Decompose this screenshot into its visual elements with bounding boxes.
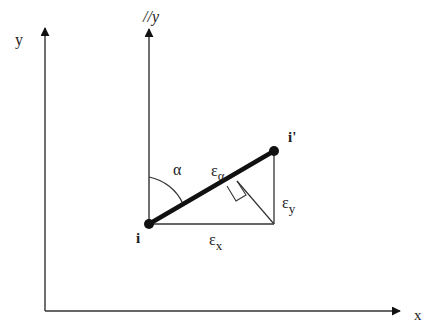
y-axis-label: y [15, 31, 23, 49]
angle-alpha-label: α [173, 161, 182, 178]
epsilon-x-label: εx [209, 231, 223, 253]
point-i-prime-label: i' [288, 129, 296, 145]
epsilon-alpha-label: εα [211, 162, 225, 183]
perpendicular-segment [237, 181, 274, 224]
epsilon-y-label: εy [282, 194, 296, 216]
parallel-y-label: //y [142, 8, 160, 26]
point-i-prime [269, 146, 279, 156]
epsilon-y-subscript: y [289, 201, 296, 216]
point-i-label: i [136, 230, 140, 246]
strain-diagram: y x //y i i' α εα εy εx [0, 0, 439, 335]
right-angle-marker [227, 181, 246, 201]
x-axis-label: x [414, 307, 422, 323]
angle-arc [149, 177, 183, 204]
epsilon-alpha-subscript: α [218, 168, 225, 183]
epsilon-x-subscript: x [216, 238, 223, 253]
point-i [144, 219, 154, 229]
